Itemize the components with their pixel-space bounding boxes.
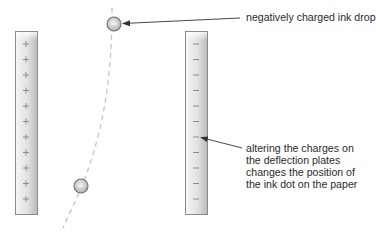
ink-trajectory-path — [63, 8, 112, 228]
ink-drop-top — [107, 17, 121, 31]
label-line: the deflection plates — [246, 154, 357, 166]
deflection-diagram — [0, 0, 376, 233]
ink-drop-label: negatively charged ink drop — [246, 11, 376, 23]
negative-deflection-plate — [186, 32, 208, 215]
deflection-plates-label: altering the charges on the deflection p… — [246, 142, 357, 190]
ink-drop-bottom — [74, 179, 88, 193]
positive-deflection-plate — [16, 32, 38, 215]
label-line: the ink dot on the paper — [246, 178, 357, 190]
label-line: altering the charges on — [246, 142, 357, 154]
label-line: changes the position of — [246, 166, 357, 178]
ink-drop-pointer-arrow — [123, 18, 240, 24]
